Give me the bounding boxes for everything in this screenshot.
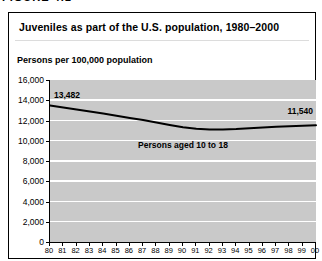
y-tick-label: 6,000 <box>10 177 44 185</box>
series-label: Persons aged 10 to 18 <box>50 140 316 150</box>
x-tick-label: 88 <box>148 247 162 255</box>
x-tick-label: 95 <box>242 247 256 255</box>
figure-label: FIGURE 4.1 <box>2 0 72 3</box>
x-tick-label: 80 <box>42 247 56 255</box>
page: { "figure_label": "FIGURE 4.1", "panel":… <box>0 0 322 261</box>
x-tick-label: 91 <box>188 247 202 255</box>
x-tick-label: 86 <box>122 247 136 255</box>
x-tick-label: 97 <box>268 247 282 255</box>
start-value-label: 13,482 <box>54 90 80 100</box>
x-tick-label: 93 <box>215 247 229 255</box>
x-tick-label: 98 <box>281 247 295 255</box>
y-tick-label: 0 <box>10 238 44 246</box>
x-tick-label: 89 <box>162 247 176 255</box>
y-tick-label: 4,000 <box>10 198 44 206</box>
x-tick-label: 85 <box>109 247 123 255</box>
population-line-chart <box>50 80 316 242</box>
x-tick-label: 96 <box>255 247 269 255</box>
plot-area: 13,482 11,540 Persons aged 10 to 18 <box>49 80 316 243</box>
y-tick-label: 12,000 <box>10 117 44 125</box>
end-value-label: 11,540 <box>287 106 313 116</box>
x-tick-label: 81 <box>55 247 69 255</box>
x-tick-label: 94 <box>228 247 242 255</box>
x-tick-label: 90 <box>175 247 189 255</box>
y-tick-label: 14,000 <box>10 96 44 104</box>
x-tick-label: 87 <box>135 247 149 255</box>
x-tick-label: 84 <box>95 247 109 255</box>
x-tick-label: 99 <box>295 247 309 255</box>
y-tick-label: 8,000 <box>10 157 44 165</box>
x-tick-label: 83 <box>82 247 96 255</box>
population-line <box>50 106 316 130</box>
x-tick-label: 92 <box>202 247 216 255</box>
y-tick-label: 16,000 <box>10 76 44 84</box>
y-tick-label: 2,000 <box>10 218 44 226</box>
x-tick-label: 82 <box>69 247 83 255</box>
y-tick-label: 10,000 <box>10 137 44 145</box>
x-tick-label: 00 <box>308 247 322 255</box>
plot-wrap: 16,00014,00012,00010,0008,0006,0004,0002… <box>9 13 315 258</box>
chart-panel: Juveniles as part of the U.S. population… <box>8 12 316 259</box>
